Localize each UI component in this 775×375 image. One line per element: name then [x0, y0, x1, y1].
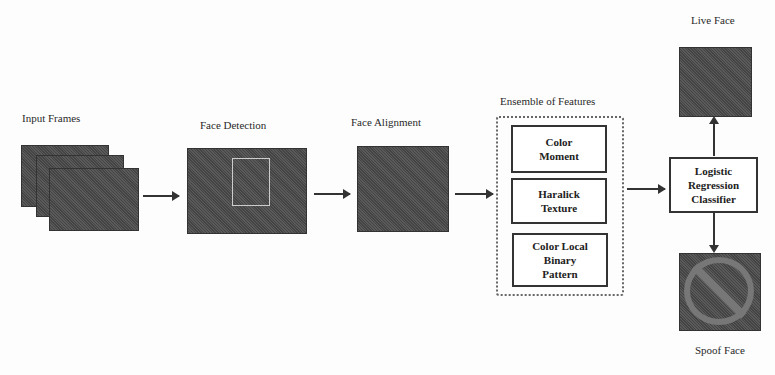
live-face-image [679, 47, 752, 117]
feature-haralick-texture: HaralickTexture [511, 178, 607, 224]
arrow-to-live-face [713, 118, 715, 156]
input-frames-label: Input Frames [22, 112, 80, 124]
arrow-to-spoof-face [713, 211, 715, 251]
spoof-face-label: Spoof Face [695, 344, 745, 356]
face-alignment-image [357, 146, 449, 232]
feature-color-moment: ColorMoment [511, 125, 607, 173]
feature-color-lbp: Color LocalBinaryPattern [512, 233, 608, 287]
input-frame-front [49, 168, 139, 231]
logistic-regression-classifier: LogisticRegressionClassifier [669, 157, 758, 213]
arrow-detection-to-alignment [314, 193, 350, 195]
live-face-label: Live Face [691, 14, 735, 26]
arrow-input-to-detection [143, 195, 179, 197]
arrow-features-to-classifier [627, 188, 665, 190]
ensemble-of-features-label: Ensemble of Features [500, 95, 595, 107]
arrow-alignment-to-features [455, 193, 493, 195]
detection-bounding-box [232, 158, 270, 206]
face-detection-label: Face Detection [200, 119, 266, 131]
prohibited-icon [684, 257, 754, 325]
face-alignment-label: Face Alignment [351, 116, 421, 128]
